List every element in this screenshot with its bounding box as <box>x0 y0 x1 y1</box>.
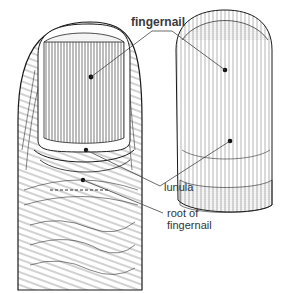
label-root-line1: root of <box>167 207 198 219</box>
label-lunula: lunula <box>164 181 193 193</box>
label-root-line2: fingernail <box>167 219 212 231</box>
label-fingernail: fingernail <box>131 16 185 28</box>
finger-illustration <box>18 22 142 290</box>
fingernail-diagram <box>0 0 284 293</box>
